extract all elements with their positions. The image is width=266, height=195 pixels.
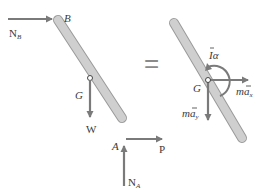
kinetic-diagram: G Iα max may [174, 23, 253, 138]
label-w: W [86, 123, 97, 135]
rigid-body-diagram: B G W A P NB NA = G Iα max may [0, 0, 266, 195]
label-na: NA [128, 176, 141, 190]
label-may: may [182, 107, 199, 121]
label-a: A [111, 140, 119, 152]
label-max: max [236, 85, 253, 99]
equals-sign: = [144, 48, 159, 78]
label-b: B [64, 12, 71, 24]
center-of-mass-g-kinetic [206, 78, 211, 83]
label-p: P [159, 143, 165, 155]
label-g-kinetic: G [193, 82, 201, 94]
label-nb: NB [9, 27, 22, 41]
label-g: G [75, 89, 83, 101]
label-ialpha: Iα [208, 49, 219, 61]
center-of-mass-g [88, 76, 93, 81]
free-body-diagram: B G W A P NB NA [8, 12, 165, 190]
